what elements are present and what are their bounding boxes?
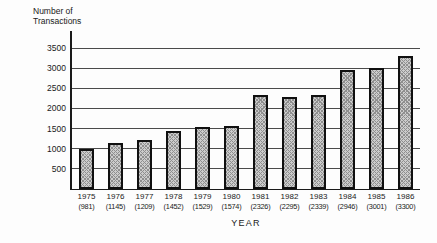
x-tick-value: (3001): [362, 202, 391, 211]
bar-1976: [108, 143, 123, 189]
plot-area: [72, 48, 420, 189]
x-tick-year: 1979: [188, 192, 217, 201]
gridline-500: [72, 168, 420, 169]
x-tick-1980: 1980(1574): [217, 192, 246, 211]
x-tick-year: 1980: [217, 192, 246, 201]
bar-1985: [369, 68, 384, 189]
x-tick-value: (1145): [101, 202, 130, 211]
y-axis-line: [70, 31, 72, 190]
x-tick-year: 1984: [333, 192, 362, 201]
x-tick-1986: 1986(3300): [391, 192, 420, 211]
x-axis-tick-labels: 1975(981)1976(1145)1977(1209)1978(1452)1…: [72, 192, 420, 214]
x-tick-1982: 1982(2295): [275, 192, 304, 211]
gridline-3500: [72, 48, 420, 49]
x-tick-1975: 1975(981): [72, 192, 101, 211]
gridline-3000: [72, 68, 420, 69]
x-tick-year: 1975: [72, 192, 101, 201]
x-tick-1976: 1976(1145): [101, 192, 130, 211]
bar-1975: [79, 149, 94, 189]
y-tick-label-3000: 3000: [28, 63, 66, 73]
y-tick-label-1000: 1000: [28, 144, 66, 154]
bar-1978: [166, 131, 181, 189]
gridline-2000: [72, 108, 420, 109]
x-tick-value: (1574): [217, 202, 246, 211]
gridline-2500: [72, 88, 420, 89]
x-tick-1977: 1977(1209): [130, 192, 159, 211]
y-tick-label-500: 500: [28, 164, 66, 174]
x-tick-year: 1981: [246, 192, 275, 201]
gridline-1500: [72, 128, 420, 129]
bar-1979: [195, 127, 210, 189]
x-tick-value: (2339): [304, 202, 333, 211]
y-tick-label-2500: 2500: [28, 83, 66, 93]
x-tick-year: 1978: [159, 192, 188, 201]
x-tick-year: 1983: [304, 192, 333, 201]
y-axis-title: Number of Transactions: [33, 6, 81, 26]
bar-1983: [311, 95, 326, 189]
x-axis-title: YEAR: [72, 218, 420, 228]
x-tick-1983: 1983(2339): [304, 192, 333, 211]
x-tick-year: 1976: [101, 192, 130, 201]
y-tick-label-3500: 3500: [28, 43, 66, 53]
bar-1984: [340, 70, 355, 189]
bar-1986: [398, 56, 413, 189]
bar-1981: [253, 95, 268, 189]
y-axis-title-line1: Number of: [33, 6, 81, 16]
y-tick-label-1500: 1500: [28, 124, 66, 134]
x-tick-1981: 1981(2326): [246, 192, 275, 211]
x-tick-year: 1982: [275, 192, 304, 201]
x-tick-value: (3300): [391, 202, 420, 211]
gridline-1000: [72, 148, 420, 149]
x-axis-line: [70, 189, 420, 191]
y-axis-title-line2: Transactions: [33, 16, 81, 26]
x-tick-year: 1985: [362, 192, 391, 201]
x-tick-year: 1986: [391, 192, 420, 201]
x-tick-value: (1529): [188, 202, 217, 211]
x-tick-value: (2295): [275, 202, 304, 211]
bar-chart-figure: Number of Transactions 50010001500200025…: [0, 0, 437, 243]
y-tick-label-2000: 2000: [28, 103, 66, 113]
bar-1982: [282, 97, 297, 189]
x-tick-1978: 1978(1452): [159, 192, 188, 211]
x-tick-1979: 1979(1529): [188, 192, 217, 211]
x-tick-value: (1452): [159, 202, 188, 211]
bar-1980: [224, 126, 239, 189]
x-tick-value: (2946): [333, 202, 362, 211]
bar-1977: [137, 140, 152, 189]
x-tick-value: (981): [72, 202, 101, 211]
x-tick-year: 1977: [130, 192, 159, 201]
x-tick-1985: 1985(3001): [362, 192, 391, 211]
x-tick-value: (2326): [246, 202, 275, 211]
x-tick-value: (1209): [130, 202, 159, 211]
x-tick-1984: 1984(2946): [333, 192, 362, 211]
